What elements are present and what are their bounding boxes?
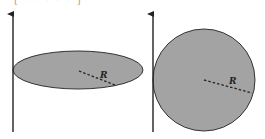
right-panel: R [153,14,255,132]
right-radius-label: R [228,76,237,86]
rotation-figure: R R [0,0,265,139]
ellipse-disk [13,51,143,89]
left-panel: R [13,14,143,132]
left-radius-label: R [99,70,108,80]
